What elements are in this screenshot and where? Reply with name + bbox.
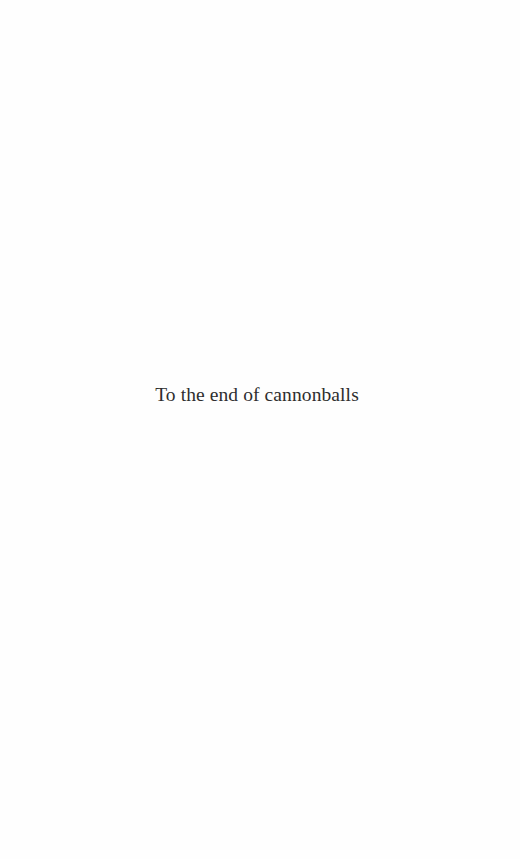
dedication-text: To the end of cannonballs [0,382,514,408]
book-page: To the end of cannonballs [0,0,520,859]
